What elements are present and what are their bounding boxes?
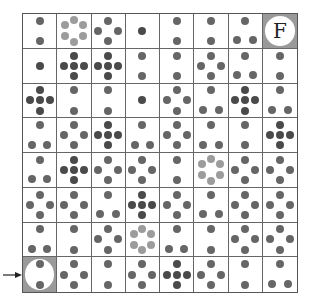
die-cell-4[interactable] — [194, 257, 228, 292]
die-cell-3[interactable] — [229, 49, 263, 84]
pip-icon — [36, 156, 44, 164]
pip-icon — [146, 141, 154, 149]
pip-icon — [217, 62, 225, 70]
pip-icon — [94, 27, 102, 35]
pip-icon — [241, 52, 249, 60]
die-cell-4[interactable] — [57, 188, 91, 223]
die-cell-4[interactable] — [229, 223, 263, 258]
pip-icon — [70, 62, 78, 70]
die-cell-5[interactable] — [23, 84, 57, 119]
die-cell-1[interactable] — [126, 84, 160, 119]
die-cell-2[interactable] — [229, 257, 263, 292]
die-cell-5[interactable] — [263, 118, 297, 153]
die-cell-4[interactable] — [229, 153, 263, 188]
pip-icon — [138, 27, 146, 35]
die-cell-6[interactable] — [126, 223, 160, 258]
die-cell-3[interactable] — [92, 188, 126, 223]
die-cell-4[interactable] — [160, 118, 194, 153]
pip-icon — [249, 36, 257, 44]
die-cell-5[interactable] — [57, 153, 91, 188]
die-cell-5[interactable] — [92, 118, 126, 153]
die-cell-4[interactable] — [57, 257, 91, 292]
pip-icon — [216, 171, 224, 179]
die-cell-2[interactable] — [160, 153, 194, 188]
pip-icon — [251, 235, 259, 243]
die-cell-5[interactable] — [92, 49, 126, 84]
die-cell-4[interactable] — [92, 223, 126, 258]
pip-icon — [286, 131, 294, 139]
die-cell-5[interactable] — [160, 257, 194, 292]
die-cell-4[interactable] — [160, 188, 194, 223]
die-cell-6[interactable] — [194, 153, 228, 188]
pip-icon — [276, 246, 284, 254]
die-cell-3[interactable] — [229, 14, 263, 49]
die-cell-2[interactable] — [23, 14, 57, 49]
die-cell-2[interactable] — [92, 84, 126, 119]
finish-cell[interactable]: F — [263, 14, 297, 49]
die-cell-2[interactable] — [160, 49, 194, 84]
die-cell-2[interactable] — [57, 223, 91, 258]
pip-icon — [28, 175, 36, 183]
pip-icon — [70, 191, 78, 199]
die-cell-6[interactable] — [57, 14, 91, 49]
pip-icon — [36, 260, 44, 268]
pip-icon — [114, 62, 122, 70]
die-cell-4[interactable] — [229, 188, 263, 223]
start-cell[interactable] — [23, 257, 57, 292]
pip-icon — [43, 141, 51, 149]
pip-icon — [96, 210, 104, 218]
pip-icon — [138, 246, 146, 254]
die-cell-5[interactable] — [229, 84, 263, 119]
pip-icon — [241, 96, 249, 104]
pip-icon — [286, 201, 294, 209]
die-cell-3[interactable] — [160, 223, 194, 258]
die-cell-3[interactable] — [194, 84, 228, 119]
pip-icon — [266, 166, 274, 174]
die-cell-3[interactable] — [126, 118, 160, 153]
die-cell-1[interactable] — [23, 49, 57, 84]
die-cell-4[interactable] — [194, 49, 228, 84]
pip-icon — [207, 86, 215, 94]
die-cell-3[interactable] — [194, 188, 228, 223]
pip-icon — [36, 225, 44, 233]
die-cell-4[interactable] — [126, 257, 160, 292]
pip-icon — [173, 191, 181, 199]
die-cell-2[interactable] — [57, 84, 91, 119]
pip-icon — [104, 176, 112, 184]
die-cell-4[interactable] — [92, 14, 126, 49]
die-cell-4[interactable] — [263, 188, 297, 223]
pip-icon — [173, 17, 181, 25]
die-cell-4[interactable] — [92, 153, 126, 188]
die-cell-2[interactable] — [263, 49, 297, 84]
die-cell-4[interactable] — [263, 223, 297, 258]
die-cell-3[interactable] — [194, 118, 228, 153]
pip-icon — [138, 176, 146, 184]
die-cell-1[interactable] — [126, 14, 160, 49]
die-cell-2[interactable] — [194, 223, 228, 258]
die-cell-4[interactable] — [57, 118, 91, 153]
pip-icon — [138, 211, 146, 219]
pip-icon — [80, 271, 88, 279]
pip-icon — [138, 156, 146, 164]
die-cell-3[interactable] — [23, 118, 57, 153]
die-cell-3[interactable] — [23, 153, 57, 188]
die-cell-4[interactable] — [126, 153, 160, 188]
die-cell-2[interactable] — [194, 14, 228, 49]
die-cell-5[interactable] — [126, 188, 160, 223]
pip-icon — [26, 201, 34, 209]
die-cell-2[interactable] — [160, 14, 194, 49]
die-cell-3[interactable] — [263, 257, 297, 292]
die-cell-2[interactable] — [229, 118, 263, 153]
pip-icon — [241, 141, 249, 149]
pip-icon — [112, 210, 120, 218]
die-cell-3[interactable] — [23, 223, 57, 258]
pip-icon — [284, 106, 292, 114]
die-cell-4[interactable] — [160, 84, 194, 119]
die-cell-2[interactable] — [92, 257, 126, 292]
die-cell-3[interactable] — [263, 84, 297, 119]
die-cell-2[interactable] — [126, 49, 160, 84]
pip-icon — [61, 21, 69, 29]
die-cell-4[interactable] — [263, 153, 297, 188]
die-cell-5[interactable] — [57, 49, 91, 84]
die-cell-4[interactable] — [23, 188, 57, 223]
